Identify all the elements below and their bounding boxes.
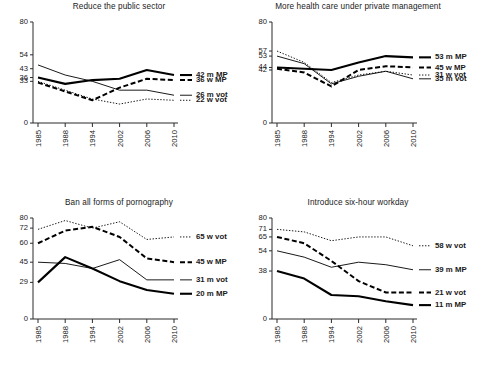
x-axis-tick-label: 1985 — [273, 326, 282, 343]
y-axis-tick-label: 80 — [259, 213, 267, 222]
plot-area: 0333643548019851988199420022006201042 m … — [0, 0, 238, 196]
legend-label: 11 m MP — [435, 300, 466, 309]
plot-area: 0294560728019851988199420022006201065 w … — [0, 196, 238, 391]
series-line — [38, 81, 174, 104]
series-line — [277, 251, 413, 270]
y-axis-tick-label: 72 — [20, 223, 28, 232]
x-axis-tick-label: 2002 — [355, 130, 364, 147]
series-line — [38, 227, 174, 262]
y-axis-tick-label: 80 — [259, 17, 267, 26]
y-axis-tick-label: 54 — [259, 246, 267, 255]
series-line — [277, 229, 413, 245]
y-axis-tick-label: 71 — [259, 224, 267, 233]
series-line — [38, 221, 174, 240]
chart-panel-six-hour-workday: Introduce six-hour workday 0385465718019… — [239, 196, 477, 391]
series-line — [277, 56, 413, 70]
x-axis-tick-label: 1985 — [34, 326, 43, 343]
legend-label: 53 m MP — [435, 52, 467, 61]
y-axis-tick-label: 54 — [20, 50, 28, 59]
legend-label: 35 m vot — [435, 74, 467, 83]
y-axis-tick-label: 36 — [20, 73, 28, 82]
x-axis-tick-label: 1994 — [327, 130, 336, 147]
x-axis-tick-label: 2002 — [116, 326, 125, 343]
legend-label: 22 w vot — [196, 95, 227, 104]
legend-label: 20 m MP — [196, 289, 228, 298]
chart-panel-health-care-private: More health care under private managemen… — [239, 0, 477, 196]
series-line — [277, 56, 413, 84]
legend-label: 39 m MP — [435, 265, 467, 274]
chart-figure: Reduce the public sector 033364354801985… — [0, 0, 477, 391]
x-axis-tick-label: 1994 — [88, 130, 97, 147]
x-axis-tick-label: 1988 — [300, 326, 309, 343]
legend-label: 31 m vot — [196, 275, 228, 284]
x-axis-tick-label: 1994 — [88, 326, 97, 343]
chart-panel-reduce-public-sector: Reduce the public sector 033364354801985… — [0, 0, 238, 196]
y-axis-tick-label: 43 — [20, 64, 28, 73]
x-axis-tick-label: 1985 — [34, 130, 43, 147]
plot-area: 0424453578019851988199420022006201053 m … — [239, 0, 477, 196]
x-axis-tick-label: 2006 — [382, 130, 391, 147]
y-axis-tick-label: 80 — [20, 17, 28, 26]
chart-panel-ban-pornography: Ban all forms of pornography 02945607280… — [0, 196, 238, 391]
plot-area: 0385465718019851988199420022006201058 w … — [239, 196, 477, 391]
x-axis-tick-label: 1994 — [327, 326, 336, 343]
legend-label: 36 w MP — [196, 75, 227, 84]
x-axis-tick-label: 2010 — [170, 130, 179, 147]
series-line — [277, 271, 413, 305]
y-axis-tick-label: 0 — [263, 118, 267, 127]
x-axis-tick-label: 2002 — [116, 130, 125, 147]
x-axis-tick-label: 1988 — [61, 130, 70, 147]
x-axis-tick-label: 2010 — [409, 326, 418, 343]
y-axis-tick-label: 0 — [24, 118, 28, 127]
y-axis-tick-label: 29 — [20, 277, 28, 286]
x-axis-tick-label: 1988 — [61, 326, 70, 343]
series-line — [38, 257, 174, 294]
y-axis-tick-label: 45 — [20, 257, 28, 266]
x-axis-tick-label: 2006 — [143, 326, 152, 343]
y-axis-tick-label: 38 — [259, 266, 267, 275]
x-axis-tick-label: 2006 — [143, 130, 152, 147]
x-axis-tick-label: 1988 — [300, 130, 309, 147]
y-axis-tick-label: 57 — [259, 46, 267, 55]
x-axis-tick-label: 2010 — [170, 326, 179, 343]
y-axis-tick-label: 80 — [20, 213, 28, 222]
x-axis-tick-label: 1985 — [273, 130, 282, 147]
y-axis-tick-label: 0 — [263, 314, 267, 323]
x-axis-tick-label: 2010 — [409, 130, 418, 147]
legend-label: 21 w vot — [435, 288, 466, 297]
y-axis-tick-label: 0 — [24, 314, 28, 323]
legend-label: 45 w MP — [196, 257, 227, 266]
legend-label: 58 w vot — [435, 241, 466, 250]
x-axis-tick-label: 2002 — [355, 326, 364, 343]
y-axis-tick-label: 44 — [259, 62, 267, 71]
x-axis-tick-label: 2006 — [382, 326, 391, 343]
y-axis-tick-label: 60 — [20, 238, 28, 247]
legend-label: 65 w vot — [196, 232, 227, 241]
